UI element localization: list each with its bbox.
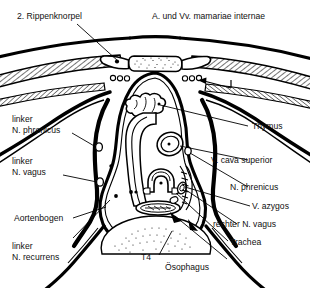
- leader-phrenicus-links: [72, 133, 96, 147]
- label-phrenicus-links-line2: N. phrenicus: [12, 125, 60, 135]
- leader-vagus-links: [63, 175, 97, 182]
- label-recurrens-line2: N. recurrens: [12, 252, 59, 262]
- label-recurrens-line1: linker: [12, 241, 33, 251]
- label-rippenknorpel: 2. Rippenknorpel: [17, 11, 82, 21]
- label-aortenbogen: Aortenbogen: [14, 213, 63, 223]
- rib-band-right-lower: [205, 84, 310, 110]
- label-phrenicus-links-line1: linker: [12, 114, 33, 124]
- phrenic-nerve-left-marker: [96, 143, 103, 151]
- label-thymus: Thymus: [252, 121, 283, 131]
- internal-mammary-vessels-left: [110, 75, 129, 81]
- label-vagus-rechts: rechter N. vagus: [213, 219, 276, 229]
- rib-band-left-lower: [0, 83, 105, 108]
- recurrent-nerve-left-marker: [109, 164, 112, 167]
- label-phrenicus: N. phrenicus: [230, 182, 278, 192]
- label-vagus-links-line1: linker: [12, 156, 33, 166]
- label-azygos: V. azygos: [252, 201, 289, 211]
- label-cava-superior: V. cava superior: [211, 155, 272, 165]
- anatomical-figure: 2. Rippenknorpel A. und Vv. mamariae int…: [0, 0, 310, 288]
- label-t4: T4: [134, 252, 158, 262]
- label-mamariae-internae: A. und Vv. mamariae internae: [152, 11, 265, 21]
- label-trachea: Trachea: [230, 237, 261, 247]
- label-vagus-links-line2: N. vagus: [12, 167, 46, 177]
- label-oesophagus: Ösophagus: [165, 262, 209, 272]
- vagus-nerve-left-marker: [97, 178, 104, 186]
- thorax-cross-section-drawing: [0, 0, 310, 288]
- sternum: [129, 56, 183, 72]
